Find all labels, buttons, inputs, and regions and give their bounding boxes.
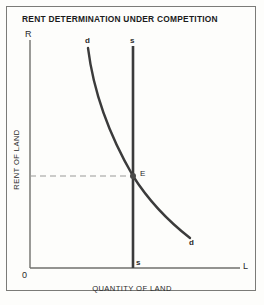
equilibrium-point-label: E bbox=[140, 169, 145, 178]
demand-curve-label-bottom: d bbox=[189, 238, 194, 247]
supply-curve-label-top: s bbox=[130, 36, 134, 45]
x-axis-letter: L bbox=[243, 261, 248, 271]
origin-label: 0 bbox=[22, 270, 27, 280]
chart-plot-area bbox=[0, 0, 264, 305]
chart-figure: RENT DETERMINATION UNDER COMPETITION R L… bbox=[0, 0, 264, 305]
y-axis-title: RENT OF LAND bbox=[12, 125, 21, 195]
equilibrium-point-marker bbox=[130, 173, 136, 179]
demand-curve-label-top: d bbox=[85, 36, 90, 45]
demand-curve bbox=[88, 48, 190, 238]
x-axis-title: QUANTITY OF LAND bbox=[0, 284, 264, 293]
supply-curve-label-bottom: s bbox=[136, 258, 140, 267]
y-axis-letter: R bbox=[25, 29, 32, 39]
